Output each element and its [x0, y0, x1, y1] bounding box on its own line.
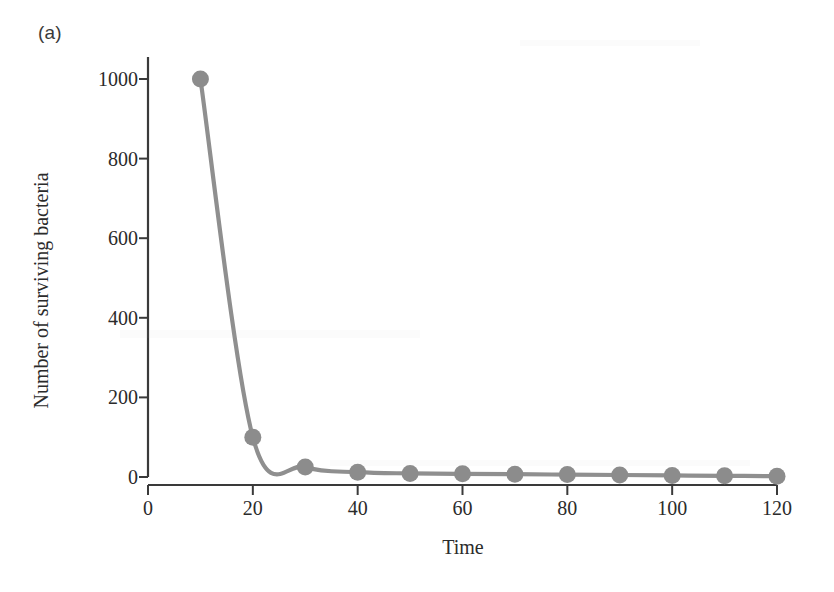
- data-point-marker: [454, 465, 471, 482]
- axes: [139, 57, 777, 495]
- series-line: [200, 79, 777, 476]
- data-point-marker: [506, 466, 523, 483]
- plot-area: [0, 0, 834, 592]
- data-point-marker: [611, 467, 628, 484]
- data-point-marker: [244, 429, 261, 446]
- data-point-marker: [716, 467, 733, 484]
- data-point-marker: [349, 464, 366, 481]
- data-point-marker: [664, 467, 681, 484]
- data-point-marker: [297, 459, 314, 476]
- data-point-marker: [769, 468, 786, 485]
- data-point-marker: [559, 466, 576, 483]
- data-point-marker: [192, 71, 209, 88]
- data-point-marker: [402, 465, 419, 482]
- data-series: [192, 71, 786, 485]
- figure-panel: (a) Number of surviving bacteria Time 02…: [0, 0, 834, 592]
